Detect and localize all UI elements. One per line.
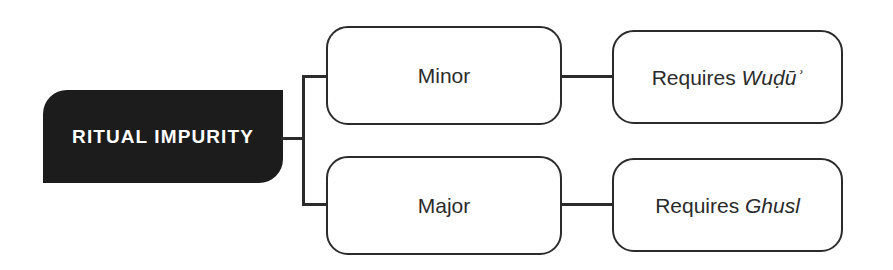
connector-bracket-to-minor: [302, 75, 328, 78]
connector-major-to-ghusl: [560, 203, 614, 206]
requires-ghusl-term: Ghusl: [745, 194, 800, 217]
node-requires-ghusl: Requires Ghusl: [612, 158, 843, 252]
node-requires-ghusl-label: Requires Ghusl: [655, 195, 800, 216]
node-major: Major: [326, 156, 562, 255]
connector-bracket-spine: [302, 76, 305, 206]
connector-bracket-to-major: [302, 203, 328, 206]
node-minor-label: Minor: [418, 65, 471, 86]
ritual-impurity-diagram: RITUAL IMPURITY Minor Major Requires Wuḍ…: [0, 0, 893, 270]
connector-minor-to-wudu: [560, 75, 614, 78]
requires-wudu-prefix: Requires: [652, 66, 742, 89]
node-requires-wudu-label: Requires Wuḍūʾ: [652, 67, 804, 88]
node-requires-wudu: Requires Wuḍūʾ: [612, 30, 843, 124]
node-major-label: Major: [418, 195, 471, 216]
requires-ghusl-prefix: Requires: [655, 194, 745, 217]
requires-wudu-term: Wuḍūʾ: [742, 66, 804, 89]
root-node-label: RITUAL IMPURITY: [72, 127, 254, 146]
node-minor: Minor: [326, 26, 562, 125]
root-node-ritual-impurity: RITUAL IMPURITY: [43, 90, 283, 183]
